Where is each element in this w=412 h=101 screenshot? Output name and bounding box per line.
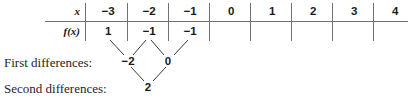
first-difference-value-1: 0	[148, 55, 188, 67]
first-difference-value-0: −2	[108, 55, 148, 67]
connector-f0-to-d1-0	[110, 40, 124, 55]
connector-f1-to-d1-0	[133, 40, 146, 55]
finite-differences-figure: x f(x) −3 −2 −1 0 1 2 3 4 1 −1 −1 First …	[0, 0, 412, 101]
connector-d1-0-to-d2-0	[131, 67, 144, 81]
second-differences-label: Second differences:	[4, 81, 107, 97]
connector-d1-1-to-d2-0	[153, 67, 166, 81]
first-differences-label: First differences:	[4, 55, 92, 71]
connector-f1-to-d1-1	[151, 40, 164, 55]
second-difference-value-0: 2	[128, 81, 168, 93]
connector-f2-to-d1-1	[174, 40, 188, 55]
